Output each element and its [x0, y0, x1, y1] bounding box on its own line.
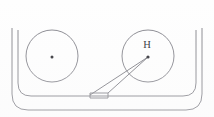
- hinge-point-dot: [146, 55, 149, 58]
- container-inner-floor-line: [18, 30, 196, 96]
- ray-right-line: [108, 57, 148, 93]
- diagram-canvas: H: [0, 0, 214, 117]
- ray-left-line: [90, 57, 148, 95]
- hinge-point-label: H: [143, 39, 151, 50]
- left-wheel-center-dot: [51, 56, 54, 59]
- pivot-rectangle: [90, 93, 108, 98]
- technical-line-drawing: H: [0, 0, 214, 117]
